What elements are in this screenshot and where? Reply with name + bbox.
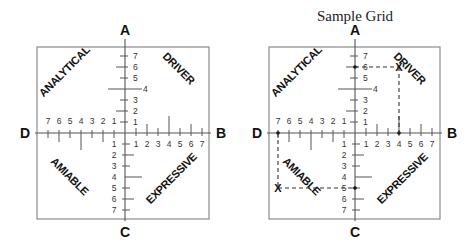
tick-label-b: 3 — [386, 139, 391, 149]
quadrant-amiable-label: AMIABLE — [281, 155, 323, 197]
tick-label-c: 3 — [342, 161, 347, 171]
tick-label-a: 5 — [133, 73, 138, 83]
blank-grid: ACDB1111222233334444555566667777ANALYTIC… — [20, 22, 226, 240]
pole-a-label: A — [120, 22, 130, 38]
tick-label-c: 4 — [342, 172, 347, 182]
sample-grid: ACDB1111222233334444555566667777ANALYTIC… — [252, 22, 457, 240]
tick-label-d: 4 — [79, 116, 84, 126]
tick-label-d: 2 — [101, 116, 106, 126]
amiable-x-mark: X — [274, 182, 282, 194]
tick-label-b: 5 — [178, 139, 183, 149]
tick-label-c: 3 — [112, 161, 117, 171]
tick-label-b: 2 — [145, 139, 150, 149]
pole-c-label: C — [350, 224, 360, 240]
tick-label-d: 7 — [276, 116, 281, 126]
tick-label-c: 1 — [112, 139, 117, 149]
pole-b-label: B — [447, 125, 457, 141]
tick-label-c: 5 — [112, 183, 117, 193]
score-dot — [353, 186, 357, 190]
tick-label-b: 7 — [200, 139, 205, 149]
tick-label-b: 6 — [419, 139, 424, 149]
tick-label-a: 5 — [363, 73, 368, 83]
pole-c-label: C — [120, 224, 130, 240]
tick-label-a: 2 — [363, 106, 368, 116]
tick-label-c: 1 — [342, 139, 347, 149]
tick-label-b: 1 — [134, 139, 139, 149]
tick-label-a: 3 — [133, 95, 138, 105]
tick-label-b: 1 — [364, 139, 369, 149]
tick-label-b: 4 — [397, 139, 402, 149]
tick-label-a: 7 — [133, 51, 138, 61]
tick-label-c: 6 — [112, 194, 117, 204]
tick-label-c: 7 — [112, 205, 117, 215]
social-style-grids: Sample Grid ACDB111122223333444455556666… — [0, 0, 474, 249]
tick-label-c: 6 — [342, 194, 347, 204]
quadrant-expressive-label: EXPRESSIVE — [143, 150, 199, 206]
tick-label-c: 2 — [112, 150, 117, 160]
tick-label-b: 4 — [167, 139, 172, 149]
pole-d-label: D — [20, 125, 30, 141]
quadrant-amiable-label: AMIABLE — [49, 155, 91, 197]
pole-a-label: A — [350, 22, 360, 38]
tick-label-d: 7 — [46, 116, 51, 126]
tick-label-a: 4 — [373, 84, 378, 94]
tick-label-d: 5 — [68, 116, 73, 126]
tick-label-d: 6 — [287, 116, 292, 126]
tick-label-b: 7 — [430, 139, 435, 149]
quadrant-expressive-label: EXPRESSIVE — [374, 150, 430, 206]
tick-label-d: 1 — [342, 116, 347, 126]
tick-label-b: 5 — [408, 139, 413, 149]
tick-label-b: 2 — [375, 139, 380, 149]
tick-label-a: 3 — [363, 95, 368, 105]
tick-label-a: 7 — [363, 51, 368, 61]
tick-label-a: 6 — [133, 62, 138, 72]
tick-label-a: 4 — [143, 84, 148, 94]
tick-label-b: 3 — [156, 139, 161, 149]
tick-label-c: 7 — [342, 205, 347, 215]
tick-label-b: 6 — [189, 139, 194, 149]
quadrant-analytical-label: ANALYTICAL — [269, 43, 325, 99]
tick-label-d: 4 — [309, 116, 314, 126]
tick-label-c: 2 — [342, 150, 347, 160]
tick-label-c: 4 — [112, 172, 117, 182]
tick-label-d: 1 — [112, 116, 117, 126]
pole-d-label: D — [252, 125, 262, 141]
grids-canvas: Sample Grid ACDB111122223333444455556666… — [0, 0, 474, 249]
tick-label-d: 2 — [331, 116, 336, 126]
tick-label-a: 1 — [363, 117, 368, 127]
driver-x-mark: X — [395, 61, 403, 73]
tick-label-d: 3 — [90, 116, 95, 126]
quadrant-driver-label: DRIVER — [161, 50, 198, 87]
tick-label-a: 2 — [133, 106, 138, 116]
tick-label-d: 5 — [298, 116, 303, 126]
pole-b-label: B — [216, 125, 226, 141]
quadrant-analytical-label: ANALYTICAL — [37, 43, 93, 99]
tick-label-d: 6 — [57, 116, 62, 126]
tick-label-d: 3 — [320, 116, 325, 126]
tick-label-a: 1 — [133, 117, 138, 127]
